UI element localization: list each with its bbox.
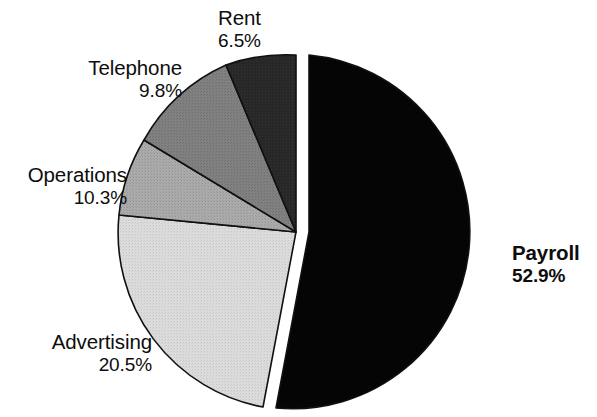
pie-label-payroll-value: 52.9% xyxy=(512,265,580,287)
pie-label-telephone-name: Telephone xyxy=(0,56,182,80)
pie-label-advertising: Advertising 20.5% xyxy=(0,330,152,377)
pie-chart-figure: Rent 6.5% Telephone 9.8% Operations 10.3… xyxy=(0,0,597,417)
pie-label-rent: Rent 6.5% xyxy=(218,6,261,53)
pie-label-operations-value: 10.3% xyxy=(0,187,127,209)
pie-label-payroll-name: Payroll xyxy=(512,241,580,265)
pie-label-operations-name: Operations xyxy=(0,163,127,187)
pie-label-rent-name: Rent xyxy=(218,6,261,30)
pie-label-telephone: Telephone 9.8% xyxy=(0,56,182,103)
pie-label-operations: Operations 10.3% xyxy=(0,163,127,210)
pie-label-telephone-value: 9.8% xyxy=(0,80,182,102)
pie-label-advertising-value: 20.5% xyxy=(0,354,152,376)
pie-label-payroll: Payroll 52.9% xyxy=(512,241,580,288)
pie-label-advertising-name: Advertising xyxy=(0,330,152,354)
pie-label-rent-value: 6.5% xyxy=(218,30,261,52)
